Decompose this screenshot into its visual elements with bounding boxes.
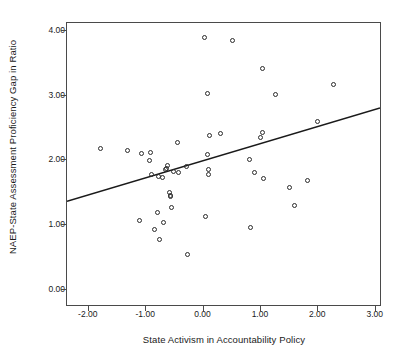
data-point bbox=[148, 150, 153, 155]
scatter-plot-figure: NAEP-State Assessment Proficiency Gap in… bbox=[0, 0, 399, 364]
plot-area bbox=[66, 22, 381, 306]
x-tick-label: 1.00 bbox=[240, 310, 280, 319]
x-tick-label: -2.00 bbox=[68, 310, 108, 319]
y-tick-label: 3.00 bbox=[31, 91, 65, 100]
data-point bbox=[205, 91, 210, 96]
x-tick-mark bbox=[260, 306, 261, 311]
data-point bbox=[169, 205, 174, 210]
x-tick-mark bbox=[203, 306, 204, 311]
data-point bbox=[185, 252, 190, 257]
data-point bbox=[157, 237, 162, 242]
data-point bbox=[125, 148, 130, 153]
data-point bbox=[155, 210, 160, 215]
data-point bbox=[248, 225, 253, 230]
y-tick-label: 1.00 bbox=[31, 220, 65, 229]
x-tick-label: 0.00 bbox=[183, 310, 223, 319]
data-point bbox=[160, 175, 165, 180]
data-point bbox=[205, 152, 210, 157]
data-point bbox=[260, 130, 265, 135]
x-tick-mark bbox=[375, 306, 376, 311]
y-axis-label: NAEP-State Assessment Proficiency Gap in… bbox=[4, 2, 22, 292]
x-tick-mark bbox=[145, 306, 146, 311]
data-point bbox=[287, 185, 292, 190]
data-point bbox=[252, 170, 257, 175]
data-point bbox=[206, 172, 211, 177]
x-tick-mark bbox=[88, 306, 89, 311]
y-tick-label: 0.00 bbox=[31, 285, 65, 294]
data-point bbox=[230, 38, 235, 43]
x-tick-mark bbox=[317, 306, 318, 311]
y-tick-label: 4.00 bbox=[31, 26, 65, 35]
regression-line bbox=[67, 23, 380, 305]
data-point bbox=[98, 146, 103, 151]
data-point bbox=[176, 170, 181, 175]
data-point bbox=[260, 66, 265, 71]
x-tick-label: 3.00 bbox=[355, 310, 395, 319]
x-tick-label: 2.00 bbox=[297, 310, 337, 319]
data-point bbox=[147, 158, 152, 163]
x-axis-label: State Activism in Accountability Policy bbox=[66, 334, 382, 345]
y-tick-label: 2.00 bbox=[31, 155, 65, 164]
x-tick-label: -1.00 bbox=[125, 310, 165, 319]
